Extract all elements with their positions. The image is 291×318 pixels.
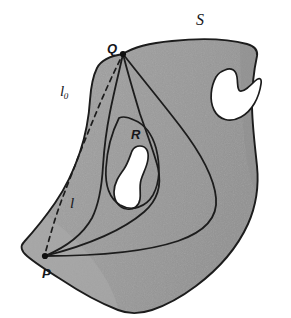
label-region-R: R <box>131 128 141 141</box>
figure-root: S Q l0 R l P <box>0 0 291 318</box>
label-surface-S: S <box>196 12 204 28</box>
point-Q-dot <box>120 51 126 57</box>
label-curve-l0: l0 <box>60 84 68 101</box>
point-P-dot <box>42 253 48 259</box>
label-curve-l0-subscript: 0 <box>64 91 69 101</box>
label-curve-l: l <box>70 196 74 211</box>
label-point-P: P <box>42 267 51 280</box>
label-curve-l-base: l <box>70 195 74 211</box>
label-point-Q: Q <box>107 42 117 55</box>
